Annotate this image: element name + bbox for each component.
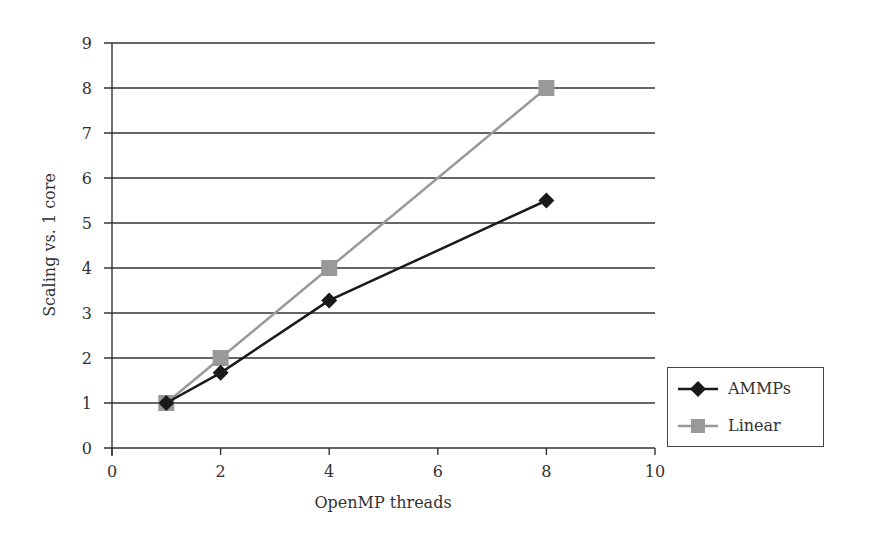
y-axis-ticks: 0123456789 [82,34,92,458]
y-tick-label: 8 [82,79,92,98]
x-tick-label: 8 [541,462,551,481]
data-series [158,80,554,411]
y-tick-label: 2 [82,349,92,368]
x-tick-label: 0 [107,462,117,481]
diamond-marker-icon [321,292,337,308]
legend-label: Linear [728,414,781,438]
diamond-marker-icon [676,377,720,401]
x-tick-label: 10 [645,462,665,481]
x-tick-label: 4 [324,462,334,481]
y-tick-label: 3 [82,304,92,323]
x-axis-ticks: 0246810 [107,462,665,481]
axes [112,43,655,456]
y-tick-label: 1 [82,394,92,413]
square-marker-icon [676,414,720,438]
legend-item-linear: Linear [668,414,823,438]
x-tick-label: 6 [433,462,443,481]
square-marker-icon [538,80,554,96]
y-tick-label: 5 [82,214,92,233]
diamond-marker-icon [538,193,554,209]
y-axis-title: Scaling vs. 1 core [40,173,59,317]
square-marker-icon [213,350,229,366]
chart-legend: AMMPs Linear [667,367,824,447]
y-tick-label: 0 [82,439,92,458]
legend-label: AMMPs [728,377,791,401]
y-tick-label: 6 [82,169,92,188]
y-tick-label: 7 [82,124,92,143]
line-chart: 0123456789 0246810 OpenMP threads Scalin… [0,0,875,546]
x-tick-label: 2 [216,462,226,481]
y-tick-label: 9 [82,34,92,53]
legend-item-ammps: AMMPs [668,377,823,401]
diamond-marker-icon [213,365,229,381]
square-marker-icon [321,260,337,276]
x-axis-title: OpenMP threads [314,493,451,512]
y-tick-label: 4 [82,259,92,278]
